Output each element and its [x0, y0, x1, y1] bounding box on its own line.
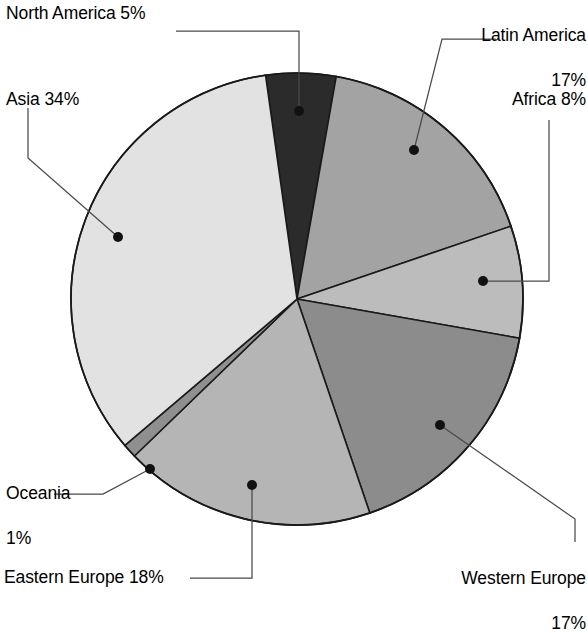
slice-label-latin-america-name: Latin America	[386, 24, 586, 46]
slice-label-asia: Asia 34%	[6, 88, 79, 110]
slice-label-africa: Africa 8%	[396, 88, 586, 110]
marker-oceania	[145, 464, 155, 474]
slice-label-western-europe-value: 17%	[386, 612, 586, 633]
marker-western-europe	[435, 420, 445, 430]
slice-label-western-europe-name: Western Europe	[386, 567, 586, 589]
slice-label-western-europe: Western Europe 17%	[386, 545, 586, 633]
slice-label-north-america: North America 5%	[6, 2, 145, 24]
slice-label-oceania: Oceania 1%	[6, 460, 70, 572]
marker-africa	[478, 276, 488, 286]
marker-eastern-europe	[247, 480, 257, 490]
marker-north-america	[294, 106, 304, 116]
pie-slices	[71, 73, 523, 525]
slice-label-oceania-name: Oceania	[6, 482, 70, 504]
slice-label-oceania-value: 1%	[6, 527, 70, 549]
marker-asia	[113, 232, 123, 242]
marker-latin-america	[409, 145, 419, 155]
